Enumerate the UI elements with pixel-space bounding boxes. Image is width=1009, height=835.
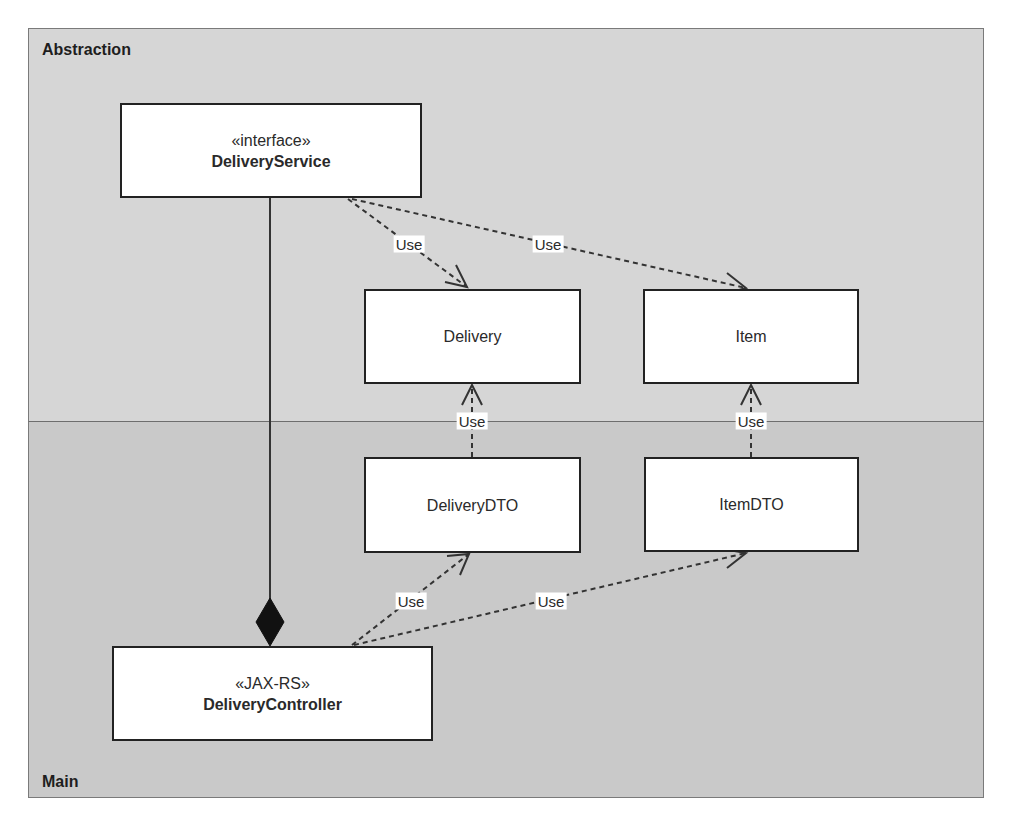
edge-label-controller-itemdto: Use	[536, 593, 567, 610]
edge-label-service-delivery: Use	[394, 236, 425, 253]
edge-label-itemdto-item: Use	[736, 413, 767, 430]
class-item-dto[interactable]: ItemDTO	[644, 457, 859, 552]
class-name-item-dto: ItemDTO	[719, 494, 784, 515]
edge-label-deliverydto-delivery: Use	[457, 413, 488, 430]
edge-label-controller-deliverydto: Use	[396, 593, 427, 610]
class-name-delivery-dto: DeliveryDTO	[427, 495, 518, 516]
class-delivery-controller[interactable]: «JAX-RS» DeliveryController	[112, 646, 433, 741]
package-label-abstraction: Abstraction	[42, 41, 131, 59]
class-name-item: Item	[735, 326, 766, 347]
class-name-delivery-controller: DeliveryController	[203, 694, 342, 715]
class-name-delivery-service: DeliveryService	[211, 151, 330, 172]
stereotype-jax-rs: «JAX-RS»	[235, 673, 310, 694]
class-item[interactable]: Item	[643, 289, 859, 384]
stereotype-interface: «interface»	[231, 130, 310, 151]
class-delivery-dto[interactable]: DeliveryDTO	[364, 457, 581, 553]
class-delivery[interactable]: Delivery	[364, 289, 581, 384]
edge-label-service-item: Use	[533, 236, 564, 253]
package-label-main: Main	[42, 773, 78, 791]
class-delivery-service[interactable]: «interface» DeliveryService	[120, 103, 422, 198]
class-name-delivery: Delivery	[444, 326, 502, 347]
